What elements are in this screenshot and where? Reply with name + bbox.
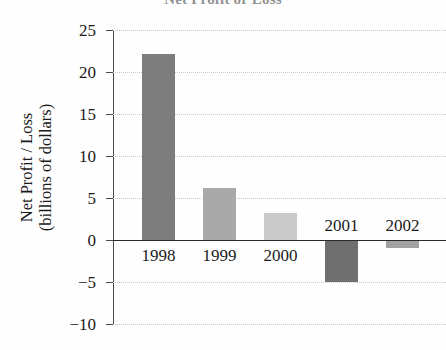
y-axis-title-line-1: Net Profit / Loss — [17, 113, 36, 223]
chart-title: Net Profit or Loss — [0, 0, 446, 7]
ytick-label-20: 20 — [50, 63, 96, 83]
gridline-neg10 — [113, 324, 446, 325]
ytick-label-neg10: −10 — [50, 315, 96, 335]
tick-mark-neg5: −5 — [106, 282, 113, 283]
bar-2001 — [325, 240, 358, 282]
gridline-25 — [113, 30, 446, 31]
plot-area: 25 20 15 10 5 0 −5 −10 1998 1999 2 — [113, 30, 446, 324]
bar-1999 — [203, 188, 236, 240]
ytick-label-15: 15 — [50, 105, 96, 125]
category-label-2001: 2001 — [325, 216, 359, 236]
ytick-label-0: 0 — [50, 231, 96, 251]
bar-1998 — [142, 54, 175, 240]
tick-mark-20: 20 — [106, 72, 113, 73]
ytick-label-5: 5 — [50, 189, 96, 209]
chart-figure: Net Profit or Loss Net Profit / Loss (bi… — [0, 0, 446, 350]
category-label-1999: 1999 — [203, 246, 237, 266]
category-label-2002: 2002 — [386, 216, 420, 236]
tick-mark-neg10: −10 — [106, 324, 113, 325]
y-axis-title: Net Profit / Loss (billions of dollars) — [0, 0, 64, 350]
tick-mark-0: 0 — [106, 240, 113, 241]
tick-mark-25: 25 — [106, 30, 113, 31]
zero-axis-line — [113, 240, 446, 241]
category-label-2000: 2000 — [264, 246, 298, 266]
tick-mark-10: 10 — [106, 156, 113, 157]
bar-2000 — [264, 213, 297, 240]
ytick-label-10: 10 — [50, 147, 96, 167]
ytick-label-neg5: −5 — [50, 273, 96, 293]
gridline-neg5 — [113, 282, 446, 283]
ytick-label-25: 25 — [50, 21, 96, 41]
tick-mark-15: 15 — [106, 114, 113, 115]
category-label-1998: 1998 — [142, 246, 176, 266]
bar-2002 — [386, 240, 419, 248]
tick-mark-5: 5 — [106, 198, 113, 199]
